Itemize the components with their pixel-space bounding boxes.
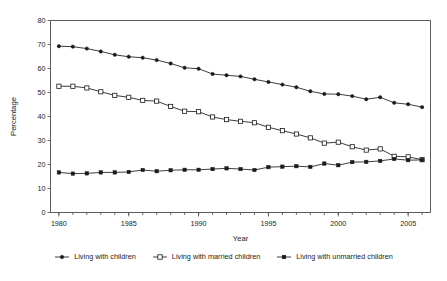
chart-figure: 0102030405060708019801985199019952000200… (0, 0, 447, 281)
y-tick-label: 10 (38, 184, 46, 193)
y-tick-label: 20 (38, 160, 46, 169)
legend-label: Living with children (74, 252, 136, 261)
chart-axes (48, 21, 431, 217)
series-0 (57, 44, 424, 108)
series-1 (57, 84, 424, 162)
x-tick-label: 1995 (260, 219, 276, 228)
x-tick-label: 2005 (400, 219, 416, 228)
line-chart-plot: 0102030405060708019801985199019952000200… (0, 0, 447, 252)
legend-marker-filled-circle-icon (54, 253, 70, 261)
chart-legend: Living with childrenLiving with married … (0, 252, 447, 261)
x-tick-label: 1985 (121, 219, 137, 228)
legend-label: Living with unmarried children (296, 252, 393, 261)
y-tick-label: 80 (38, 16, 46, 25)
x-tick-label: 2000 (330, 219, 346, 228)
chart-axis-labels: 0102030405060708019801985199019952000200… (9, 16, 416, 242)
series-2 (57, 157, 424, 175)
x-axis-title: Year (233, 234, 249, 243)
x-tick-label: 1980 (51, 219, 67, 228)
y-axis-title: Percentage (9, 97, 18, 136)
y-tick-label: 0 (42, 208, 46, 217)
y-tick-label: 70 (38, 40, 46, 49)
legend-marker-filled-square-icon (276, 253, 292, 261)
y-tick-label: 40 (38, 112, 46, 121)
legend-item-2[interactable]: Living with unmarried children (276, 252, 393, 261)
legend-item-1[interactable]: Living with married children (152, 252, 260, 261)
x-tick-label: 1990 (191, 219, 207, 228)
legend-marker-open-square-icon (152, 253, 168, 261)
y-tick-label: 30 (38, 136, 46, 145)
legend-item-0[interactable]: Living with children (54, 252, 136, 261)
legend-label: Living with married children (172, 252, 260, 261)
y-tick-label: 60 (38, 64, 46, 73)
chart-series (57, 44, 424, 175)
y-tick-label: 50 (38, 88, 46, 97)
